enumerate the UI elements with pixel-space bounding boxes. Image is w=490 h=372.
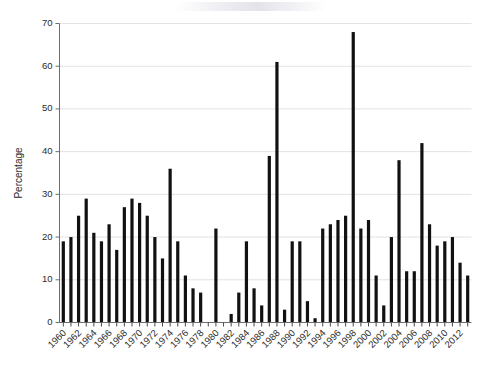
bar: [367, 220, 370, 323]
y-tick-label: 70: [42, 17, 53, 28]
bar: [298, 241, 301, 322]
bar: [130, 199, 133, 323]
bar: [115, 250, 118, 323]
y-tick-label: 20: [42, 231, 53, 242]
y-tick-label: 30: [42, 188, 53, 199]
bar: [77, 216, 80, 323]
chart-canvas: 010203040506070 196019621964196619681970…: [0, 0, 490, 372]
bar: [466, 276, 469, 323]
bar: [329, 224, 332, 322]
bar: [428, 224, 431, 322]
bar: [291, 241, 294, 322]
bar: [69, 237, 72, 322]
bar: [245, 241, 248, 322]
bar: [62, 241, 65, 322]
bar: [230, 314, 233, 323]
bar: [123, 207, 126, 322]
bar: [138, 203, 141, 323]
bar: [260, 305, 263, 322]
bar: [375, 276, 378, 323]
bar: [436, 246, 439, 323]
bar: [161, 258, 164, 322]
bar: [382, 305, 385, 322]
bar: [451, 237, 454, 322]
bar: [275, 62, 278, 323]
bar: [153, 237, 156, 322]
bar: [321, 229, 324, 323]
bar: [359, 229, 362, 323]
bar-chart: 010203040506070 196019621964196619681970…: [0, 0, 490, 372]
bar: [405, 271, 408, 322]
bar: [92, 233, 95, 323]
bar: [413, 271, 416, 322]
bar: [100, 241, 103, 322]
bar: [199, 293, 202, 323]
bar: [146, 216, 149, 323]
bar: [184, 276, 187, 323]
y-tick-label: 50: [42, 102, 53, 113]
bar: [176, 241, 179, 322]
bar: [390, 237, 393, 322]
bar: [191, 288, 194, 322]
bar: [420, 143, 423, 322]
bar: [458, 263, 461, 323]
bar: [352, 32, 355, 322]
bar: [306, 301, 309, 322]
bar: [283, 310, 286, 323]
bar: [443, 241, 446, 322]
bar: [397, 160, 400, 322]
bar: [336, 220, 339, 323]
y-tick-label: 60: [42, 60, 53, 71]
bar: [107, 224, 110, 322]
bar: [268, 156, 271, 323]
bar: [237, 293, 240, 323]
bar: [313, 318, 316, 322]
y-axis-title: Percentage: [13, 147, 24, 199]
y-tick-label: 10: [42, 273, 53, 284]
bar: [214, 229, 217, 323]
y-tick-label: 0: [47, 316, 52, 327]
bar: [252, 288, 255, 322]
bar: [169, 169, 172, 323]
bar: [344, 216, 347, 323]
bar: [85, 199, 88, 323]
y-tick-label: 40: [42, 145, 53, 156]
